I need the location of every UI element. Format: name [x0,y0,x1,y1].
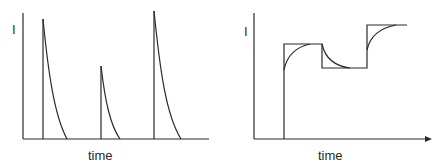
spike-2-decay [101,66,120,139]
spike-3-decay [154,11,181,139]
left-x-axis-label: time [88,148,113,163]
right-y-axis-label: I [244,24,248,39]
step-input-line [284,25,407,139]
left-y-axis-label: I [12,22,16,37]
spike-1-decay [43,19,67,139]
right-panel [254,13,432,142]
response-curve-3 [367,25,396,50]
left-panel [23,11,209,139]
response-curve-1 [284,44,310,70]
x-axis-arrowhead [425,136,432,142]
right-x-axis-label: time [318,148,343,163]
diagram-canvas [0,0,444,166]
response-curve-2 [322,44,350,68]
